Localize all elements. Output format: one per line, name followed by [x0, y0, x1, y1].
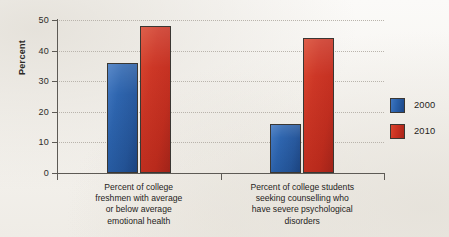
category-label-line: Percent of college students	[221, 182, 385, 193]
category-label-line: Percent of college	[57, 182, 221, 193]
category-label-1: Percent of collegefreshmen with averageo…	[57, 182, 221, 227]
y-tick-label: 10	[39, 137, 49, 147]
category-label-line: freshmen with average	[57, 193, 221, 204]
bar-2000-group-2	[270, 124, 301, 173]
y-tick-label: 0	[44, 168, 49, 178]
legend-label-2010: 2010	[414, 126, 435, 136]
legend: 20002010	[390, 92, 435, 144]
y-axis-title: Percent	[17, 40, 27, 75]
legend-item-2010: 2010	[390, 118, 435, 144]
gridline	[57, 20, 384, 21]
category-label-line: emotional health	[57, 216, 221, 227]
gridline	[57, 51, 384, 52]
legend-item-2000: 2000	[390, 92, 435, 118]
legend-swatch-2000	[390, 98, 405, 113]
y-tick-label: 40	[39, 46, 49, 56]
legend-label-2000: 2000	[414, 100, 435, 110]
legend-swatch-2010	[390, 124, 405, 139]
y-axis-line	[57, 19, 58, 174]
chart-figure: Percent 01020304050 Percent of collegefr…	[0, 0, 449, 237]
category-label-line: disorders	[221, 216, 385, 227]
plot-area: 01020304050	[57, 20, 384, 173]
x-tick-mark	[221, 173, 222, 180]
y-tick-label: 20	[39, 107, 49, 117]
category-label-line: have severe psychological	[221, 204, 385, 215]
x-tick-mark	[57, 173, 58, 180]
x-tick-mark	[384, 173, 385, 180]
bar-2010-group-1	[140, 26, 171, 173]
category-label-2: Percent of college studentsseeking couns…	[221, 182, 385, 227]
category-label-line: seeking counselling who	[221, 193, 385, 204]
bar-2000-group-1	[107, 63, 138, 173]
y-tick-label: 30	[39, 76, 49, 86]
bar-2010-group-2	[303, 38, 334, 173]
y-tick-label: 50	[39, 15, 49, 25]
category-label-line: or below average	[57, 204, 221, 215]
